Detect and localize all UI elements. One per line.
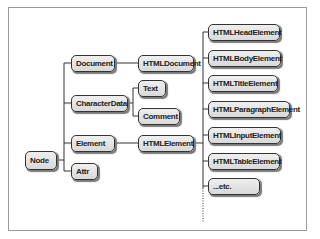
node-html-body-element: HTMLBodyElement: [208, 50, 281, 67]
node-html-head-element: HTMLHeadElement: [208, 24, 280, 41]
node-html-element: HTMLElement: [138, 135, 194, 152]
node-element: Element: [71, 135, 115, 152]
node-comment: Comment: [138, 108, 180, 125]
node-text: Text: [138, 80, 166, 97]
node-node: Node: [25, 151, 57, 170]
node-html-document: HTMLDocument: [138, 55, 194, 72]
node-html-paragraph-element: HTMLParagraphElement: [208, 101, 290, 118]
node-document: Document: [71, 55, 115, 72]
node-html-title-element: HTMLTitleElement: [208, 75, 278, 92]
node-character-data: CharacterData: [71, 95, 128, 112]
node-html-table-element: HTMLTableElement: [208, 153, 280, 170]
node-attr: Attr: [71, 163, 98, 180]
node-etc: ...etc.: [208, 178, 260, 195]
node-html-input-element: HTMLInputElement: [208, 127, 281, 144]
